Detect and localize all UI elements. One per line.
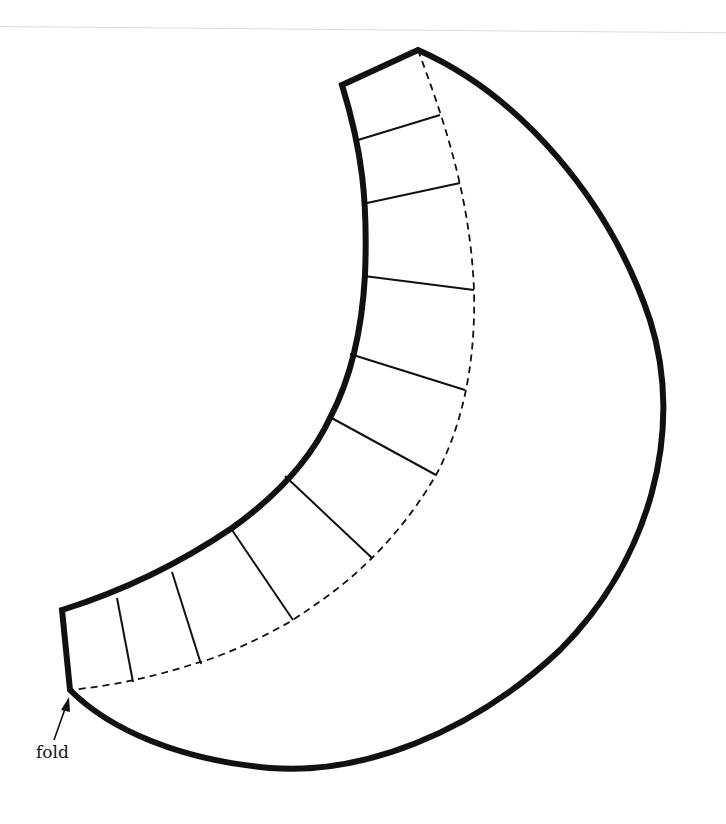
pattern-outline bbox=[62, 50, 663, 769]
fold-label: fold bbox=[36, 742, 69, 762]
pattern-diagram bbox=[0, 0, 726, 824]
fold-dashed-line bbox=[70, 50, 474, 690]
segment-lines bbox=[117, 115, 474, 682]
fold-arrow-icon bbox=[54, 697, 70, 740]
